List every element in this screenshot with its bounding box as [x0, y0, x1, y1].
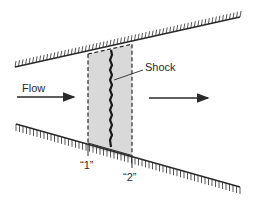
flow-label: Flow: [22, 82, 45, 94]
shock-label: Shock: [145, 61, 176, 73]
shock-diagram: Flow Shock “1” “2”: [0, 0, 257, 202]
station-1-label: “1”: [80, 159, 94, 171]
station-2-label: “2”: [123, 171, 137, 183]
